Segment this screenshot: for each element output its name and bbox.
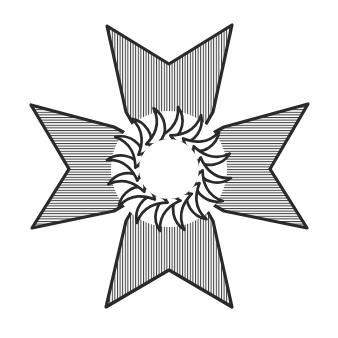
flaming-sun-rosette xyxy=(107,107,232,232)
emblem-canvas: Four-armed dart cross with hatched arms … xyxy=(0,0,338,338)
sun-cross-emblem xyxy=(0,0,338,338)
rosette-core xyxy=(139,139,199,199)
